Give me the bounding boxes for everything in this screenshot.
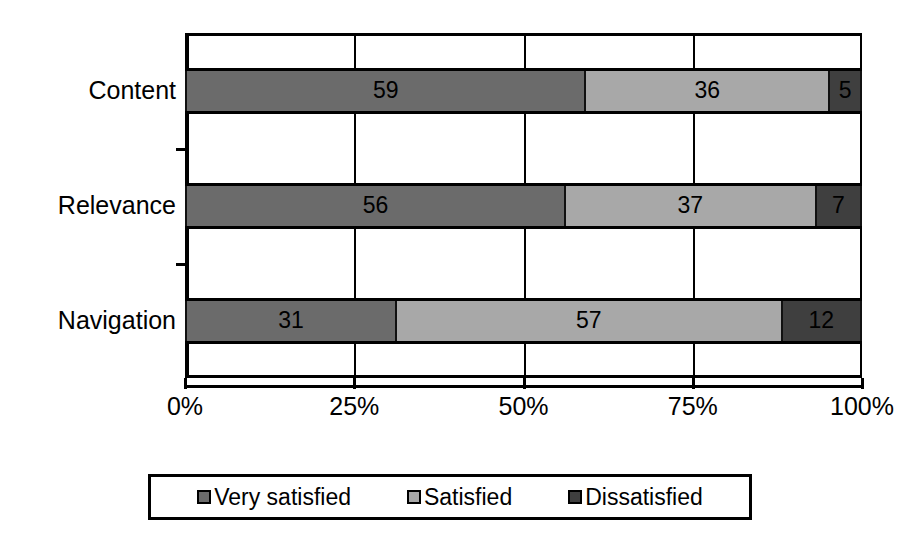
legend-swatch-icon <box>407 490 421 504</box>
segment-value-label: 7 <box>832 194 845 217</box>
bar-segment-satisfied[interactable]: 57 <box>395 301 781 341</box>
stacked-bar-chart: ContentRelevanceNavigation 5936556377315… <box>0 0 913 554</box>
segment-value-label: 57 <box>576 309 602 332</box>
category-axis-labels: ContentRelevanceNavigation <box>0 33 176 378</box>
value-axis-label-50: 50% <box>498 394 548 419</box>
category-label-navigation: Navigation <box>58 308 176 333</box>
legend-swatch-icon <box>568 490 582 504</box>
legend-swatch-icon <box>197 490 211 504</box>
value-axis-label-25: 25% <box>329 394 379 419</box>
value-axis-label-75: 75% <box>668 394 718 419</box>
legend-item-dissatisfied[interactable]: Dissatisfied <box>568 486 703 509</box>
bar-segment-very-satisfied[interactable]: 59 <box>185 71 584 111</box>
value-axis-label-100: 100% <box>830 394 894 419</box>
bar-segment-very-satisfied[interactable]: 56 <box>185 186 564 226</box>
segment-value-label: 12 <box>809 309 835 332</box>
segment-value-label: 31 <box>278 309 304 332</box>
bar-segment-dissatisfied[interactable]: 12 <box>781 301 862 341</box>
value-axis-tick-75 <box>692 378 695 389</box>
category-label-content: Content <box>88 78 176 103</box>
value-axis-tick-100 <box>861 378 864 389</box>
legend-label: Satisfied <box>424 486 512 509</box>
legend-label: Dissatisfied <box>585 486 703 509</box>
bar-segment-dissatisfied[interactable]: 5 <box>828 71 862 111</box>
bar-navigation[interactable]: 315712 <box>185 298 862 344</box>
segment-value-label: 5 <box>839 79 852 102</box>
plot-area: 5936556377315712 <box>185 33 862 378</box>
legend-item-very-satisfied[interactable]: Very satisfied <box>197 486 351 509</box>
segment-value-label: 36 <box>694 79 720 102</box>
value-axis-tick-25 <box>353 378 356 389</box>
segment-value-label: 56 <box>363 194 389 217</box>
value-axis-tick-0 <box>184 378 187 389</box>
segment-value-label: 37 <box>678 194 704 217</box>
bar-segment-satisfied[interactable]: 36 <box>584 71 828 111</box>
segment-value-label: 59 <box>373 79 399 102</box>
value-axis-label-0: 0% <box>167 394 203 419</box>
category-label-relevance: Relevance <box>58 193 176 218</box>
bar-content[interactable]: 59365 <box>185 68 862 114</box>
bar-relevance[interactable]: 56377 <box>185 183 862 229</box>
legend-label: Very satisfied <box>214 486 351 509</box>
value-axis-tick-50 <box>523 378 526 389</box>
bar-segment-very-satisfied[interactable]: 31 <box>185 301 395 341</box>
legend-item-satisfied[interactable]: Satisfied <box>407 486 512 509</box>
chart-legend: Very satisfiedSatisfiedDissatisfied <box>148 474 752 520</box>
bar-segment-dissatisfied[interactable]: 7 <box>815 186 862 226</box>
bar-segment-satisfied[interactable]: 37 <box>564 186 814 226</box>
